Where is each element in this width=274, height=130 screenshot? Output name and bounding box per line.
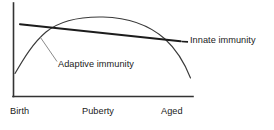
series-label-adaptive-immunity: Adaptive immunity — [58, 60, 134, 69]
x-axis-tick-label-birth: Birth — [10, 107, 29, 116]
x-axis-tick-label-puberty: Puberty — [82, 107, 114, 116]
chart-plot-area — [0, 0, 274, 130]
adaptive-immunity-leader-line — [41, 38, 58, 62]
x-axis-tick-label-aged: Aged — [161, 107, 183, 116]
immunity-lifespan-chart: Innate immunity Adaptive immunity Birth … — [0, 0, 274, 130]
series-label-innate-immunity: Innate immunity — [190, 36, 256, 45]
